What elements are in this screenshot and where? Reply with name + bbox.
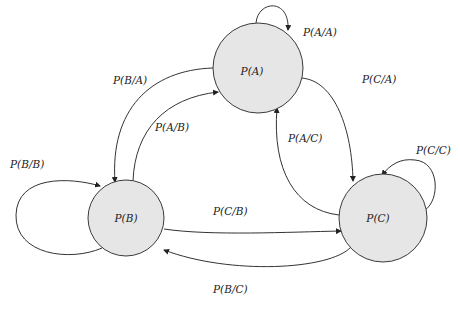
edge-label-b-c: P(B/C) [212, 283, 248, 295]
edge-b-a [133, 92, 218, 181]
edge-label-c-a: P(C/A) [361, 73, 396, 85]
edge-label-a-b: P(A/B) [154, 121, 189, 133]
markov-diagram: P(A) P(B) P(C) P(A/A) P(B/A) P(C/A) P(A/… [0, 0, 460, 309]
edge-label-a-a: P(A/A) [302, 26, 337, 38]
edge-label-a-c: P(A/C) [287, 132, 322, 144]
edge-a-c [301, 78, 353, 181]
edge-label-b-a: P(B/A) [112, 74, 147, 86]
edge-label-c-c: P(C/C) [415, 144, 451, 156]
node-b-label: P(B) [114, 212, 138, 224]
node-a-label: P(A) [240, 65, 264, 77]
edge-c-a [276, 108, 339, 215]
node-c-label: P(C) [365, 212, 389, 224]
edge-b-c [164, 229, 341, 233]
edge-c-b [164, 247, 351, 267]
edge-label-c-b: P(C/B) [212, 205, 248, 217]
edge-label-b-b: P(B/B) [9, 158, 44, 170]
